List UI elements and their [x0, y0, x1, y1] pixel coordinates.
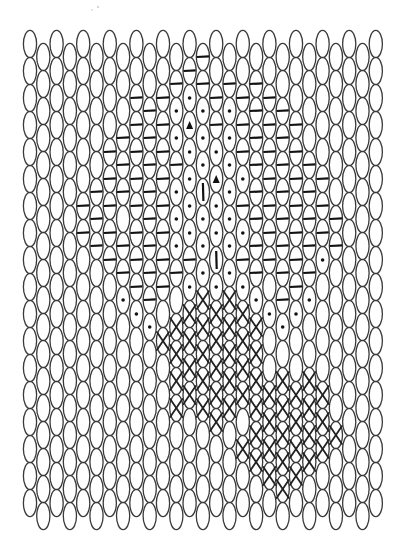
bead-oval	[329, 394, 342, 421]
pattern-cell	[329, 70, 342, 97]
pattern-cell	[130, 246, 143, 273]
bead-oval	[170, 475, 183, 502]
bead-oval	[356, 367, 369, 394]
pattern-cell	[223, 70, 236, 97]
pattern-cell	[356, 124, 369, 151]
bead-oval	[170, 502, 183, 529]
bead-oval	[236, 408, 249, 435]
dot-mark-icon	[308, 298, 312, 302]
dash-mark-icon	[277, 299, 289, 300]
pattern-cell	[316, 30, 329, 57]
pattern-cell	[130, 165, 143, 192]
pattern-cell	[170, 43, 183, 70]
pattern-cell	[103, 489, 116, 516]
pattern-cell	[23, 30, 36, 57]
pattern-cell	[236, 435, 249, 462]
pattern-cell	[223, 259, 236, 286]
bead-oval	[343, 489, 356, 516]
bead-oval	[23, 300, 36, 327]
pattern-cell	[236, 111, 249, 138]
pattern-cell	[369, 84, 382, 111]
bead-oval	[223, 502, 236, 529]
pattern-cell	[263, 435, 276, 462]
bead-oval	[117, 340, 130, 367]
bead-oval	[50, 408, 63, 435]
pattern-cell	[130, 462, 143, 489]
bead-oval	[130, 381, 143, 408]
pattern-cell	[289, 84, 302, 111]
pattern-cell	[223, 43, 236, 70]
bead-oval	[37, 70, 50, 97]
dash-mark-icon	[170, 272, 182, 273]
dash-mark-icon	[157, 205, 169, 206]
dash-mark-icon	[157, 178, 169, 179]
pattern-cell	[356, 97, 369, 124]
pattern-cell	[50, 462, 63, 489]
pattern-cell	[183, 246, 196, 273]
pattern-cell	[63, 97, 76, 124]
pattern-cell	[236, 165, 249, 192]
pattern-cell	[236, 462, 249, 489]
bead-oval	[303, 43, 316, 70]
triangle-mark-icon	[186, 121, 193, 129]
pattern-cell	[156, 408, 169, 435]
pattern-cell	[316, 327, 329, 354]
pattern-cell	[63, 475, 76, 502]
pattern-cell	[117, 205, 130, 232]
pattern-cell	[143, 394, 156, 421]
pattern-cell	[50, 84, 63, 111]
dash-mark-icon	[170, 83, 182, 84]
bead-oval	[156, 354, 169, 381]
pattern-cell	[37, 151, 50, 178]
bead-oval	[130, 354, 143, 381]
pattern-cell	[90, 448, 103, 475]
pattern-cell	[156, 30, 169, 57]
pattern-cell	[23, 219, 36, 246]
dash-mark-icon	[250, 218, 262, 219]
bead-oval	[77, 273, 90, 300]
pattern-cell	[369, 57, 382, 84]
bead-oval	[223, 43, 236, 70]
pattern-cell	[50, 138, 63, 165]
bead-oval	[50, 435, 63, 462]
pattern-cell	[263, 273, 276, 300]
pattern-cell	[369, 246, 382, 273]
pattern-cell	[303, 394, 316, 421]
pattern-cell	[63, 205, 76, 232]
dash-mark-icon	[117, 164, 129, 165]
bead-oval	[37, 367, 50, 394]
bead-oval	[143, 394, 156, 421]
pattern-cell	[223, 313, 236, 340]
bead-oval	[23, 381, 36, 408]
bead-oval	[23, 165, 36, 192]
bead-oval	[329, 70, 342, 97]
pattern-cell	[343, 246, 356, 273]
bead-oval	[156, 30, 169, 57]
pattern-cell	[156, 57, 169, 84]
dot-mark-icon	[228, 163, 232, 167]
bead-oval	[343, 300, 356, 327]
pattern-cell	[143, 367, 156, 394]
dash-mark-icon	[277, 191, 289, 192]
bead-oval	[63, 232, 76, 259]
bead-oval	[117, 205, 130, 232]
bead-oval	[289, 57, 302, 84]
dot-mark-icon	[175, 109, 179, 113]
bead-oval	[103, 327, 116, 354]
dot-mark-icon	[241, 285, 245, 289]
bead-oval	[63, 43, 76, 70]
bead-oval	[343, 462, 356, 489]
dash-mark-icon	[117, 272, 129, 273]
pattern-cell	[316, 462, 329, 489]
bead-oval	[117, 448, 130, 475]
pattern-cell	[130, 84, 143, 111]
dash-mark-icon	[130, 151, 142, 152]
pattern-cell	[63, 178, 76, 205]
pattern-cell	[329, 232, 342, 259]
pattern-cell	[170, 502, 183, 529]
pattern-cell	[23, 57, 36, 84]
dot-mark-icon	[214, 231, 218, 235]
pattern-cell	[316, 435, 329, 462]
pattern-cell	[117, 286, 130, 313]
pattern-cell	[210, 435, 223, 462]
